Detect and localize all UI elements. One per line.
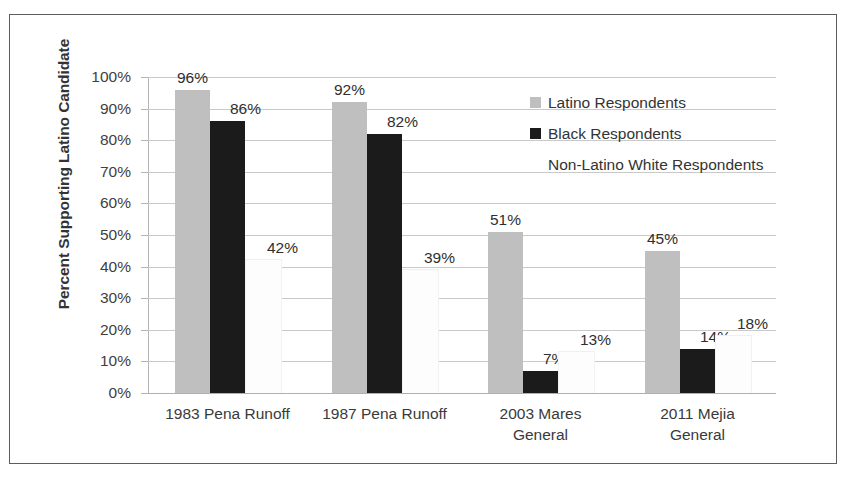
y-axis-tick-label: 90% <box>61 100 131 118</box>
chart-legend: Latino RespondentsBlack RespondentsNon-L… <box>530 87 830 180</box>
legend-item[interactable]: Non-Latino White Respondents <box>530 149 830 180</box>
y-axis-tick-label: 50% <box>61 226 131 244</box>
y-axis-tick-label: 60% <box>61 194 131 212</box>
y-axis-tick-label: 10% <box>61 352 131 370</box>
y-axis-tick-label: 0% <box>61 384 131 402</box>
bar <box>488 232 523 393</box>
bar <box>210 121 245 393</box>
bar-value-label: 96% <box>177 69 208 87</box>
bar-value-label: 39% <box>424 249 455 267</box>
legend-item[interactable]: Latino Respondents <box>530 87 830 118</box>
chart-figure-frame: Percent Supporting Latino Candidate 0%10… <box>9 14 837 464</box>
bar <box>332 102 367 393</box>
y-axis-tick-label: 80% <box>61 131 131 149</box>
x-axis-category-label-line: 2003 Mares <box>451 403 631 424</box>
bar <box>245 259 282 393</box>
x-axis-category-label: 2011 MejiaGeneral <box>608 403 788 446</box>
x-axis-category-label-line: General <box>451 424 631 445</box>
bar-value-label: 51% <box>490 211 521 229</box>
legend-swatch-icon <box>530 97 541 108</box>
bar <box>680 349 715 393</box>
bar-value-label: 92% <box>334 81 365 99</box>
legend-swatch-icon <box>530 159 541 170</box>
bar <box>645 251 680 393</box>
y-axis-tick-label: 30% <box>61 289 131 307</box>
legend-label: Latino Respondents <box>548 94 686 112</box>
bar-value-label: 45% <box>647 230 678 248</box>
bar-value-label: 18% <box>737 315 768 333</box>
bar-value-label: 86% <box>230 100 261 118</box>
bar <box>402 269 439 393</box>
bar-value-label: 82% <box>387 113 418 131</box>
legend-swatch-icon <box>530 128 541 139</box>
x-axis-category-label-line: 1983 Pena Runoff <box>138 403 318 424</box>
x-axis-category-label-line: General <box>608 424 788 445</box>
y-axis-tick-label: 40% <box>61 258 131 276</box>
bar <box>175 90 210 393</box>
bar-value-label: 13% <box>580 331 611 349</box>
bar <box>715 335 752 393</box>
x-axis-category-label-line: 2011 Mejia <box>608 403 788 424</box>
x-axis-category-label: 1983 Pena Runoff <box>138 403 318 424</box>
x-axis-category-label-line: 1987 Pena Runoff <box>295 403 475 424</box>
y-axis-tick-label: 100% <box>61 68 131 86</box>
x-axis-category-label: 2003 MaresGeneral <box>451 403 631 446</box>
legend-item[interactable]: Black Respondents <box>530 118 830 149</box>
y-axis-tick-label: 70% <box>61 163 131 181</box>
gridline <box>148 393 776 394</box>
bar <box>367 134 402 393</box>
legend-label: Black Respondents <box>548 125 682 143</box>
y-axis-tick-label: 20% <box>61 321 131 339</box>
x-axis-category-label: 1987 Pena Runoff <box>295 403 475 424</box>
bar <box>558 351 595 393</box>
legend-label: Non-Latino White Respondents <box>548 156 763 174</box>
bar <box>523 371 558 393</box>
gridline <box>148 77 776 78</box>
bar-value-label: 42% <box>267 239 298 257</box>
